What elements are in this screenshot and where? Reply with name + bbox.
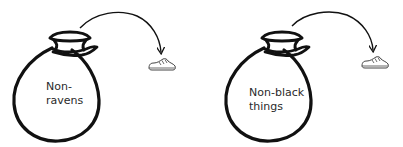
bag-rim (262, 32, 302, 41)
bag-label-right: Non-black things (249, 86, 304, 114)
shoe-icon (362, 57, 388, 68)
bag-label-line1: Non- (46, 80, 83, 94)
curved-arrow (292, 12, 373, 50)
shoe-icon (149, 59, 175, 70)
bag-rim (50, 32, 90, 41)
bag-label-line1: Non-black (249, 86, 304, 100)
bag-label-left: Non- ravens (46, 80, 83, 108)
bag-label-line2: ravens (46, 94, 83, 108)
bag-label-line2: things (249, 100, 304, 114)
